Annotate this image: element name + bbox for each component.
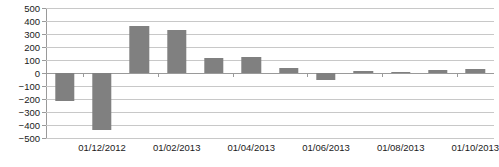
y-axis-tick-label: 500 [24, 3, 40, 14]
x-axis-tick-labels: 01/12/201201/02/201301/04/201301/06/2013… [46, 142, 494, 164]
y-axis-tick-label: 100 [24, 55, 40, 66]
y-axis-tick-mark [42, 86, 46, 87]
bar-slot [419, 8, 456, 138]
y-axis-tick-label: 300 [24, 29, 40, 40]
x-axis-tick-mark [83, 73, 84, 77]
bar-slot [345, 8, 382, 138]
bar[interactable] [391, 72, 410, 73]
bar[interactable] [167, 30, 186, 73]
y-axis-tick-label: −100 [19, 81, 40, 92]
y-axis-tick-mark [42, 73, 46, 74]
bar-slot [83, 8, 120, 138]
bar-slot [270, 8, 307, 138]
x-axis-tick-label: 01/04/2013 [228, 142, 276, 153]
y-axis-tick-label: 0 [35, 68, 40, 79]
x-axis-tick-mark [307, 73, 308, 77]
x-axis-tick-mark [457, 73, 458, 77]
y-axis-tick-mark [42, 112, 46, 113]
x-axis-tick-label: 01/10/2013 [452, 142, 499, 153]
y-axis-tick-mark [42, 34, 46, 35]
bar-slot [195, 8, 232, 138]
bar-slot [307, 8, 344, 138]
bar[interactable] [204, 58, 223, 73]
bar-slot [46, 8, 83, 138]
x-axis-tick-label: 01/02/2013 [153, 142, 201, 153]
bar[interactable] [279, 68, 298, 73]
x-axis-tick-label: 01/06/2013 [302, 142, 350, 153]
y-axis-tick-label: −400 [19, 120, 40, 131]
y-axis-tick-label: −200 [19, 94, 40, 105]
y-axis-tick-mark [42, 125, 46, 126]
y-axis-tick-label: −500 [19, 133, 40, 144]
x-axis-tick-mark [382, 73, 383, 77]
bar-slot [457, 8, 494, 138]
bar-series [46, 8, 494, 138]
y-axis-tick-mark [42, 8, 46, 9]
bar[interactable] [428, 70, 447, 73]
bar[interactable] [130, 26, 149, 73]
gridline [46, 138, 494, 139]
y-axis-tick-mark [42, 99, 46, 100]
bar-slot [121, 8, 158, 138]
bar[interactable] [242, 57, 261, 73]
y-axis-tick-mark [42, 47, 46, 48]
y-axis-tick-labels: 5004003002001000−100−200−300−400−500 [0, 8, 40, 138]
y-axis-tick-mark [42, 21, 46, 22]
x-axis-tick-mark [233, 73, 234, 77]
y-axis-tick-label: 200 [24, 42, 40, 53]
plot-area [46, 8, 494, 138]
bar-slot [158, 8, 195, 138]
x-axis-tick-mark [158, 73, 159, 77]
x-axis-tick-label: 01/12/2012 [78, 142, 126, 153]
y-axis-tick-label: −300 [19, 107, 40, 118]
x-axis-tick-label: 01/08/2013 [377, 142, 425, 153]
bar[interactable] [55, 73, 74, 101]
bar[interactable] [466, 69, 485, 73]
y-axis-tick-mark [42, 60, 46, 61]
bar[interactable] [354, 71, 373, 73]
y-axis-tick-mark [42, 138, 46, 139]
bar[interactable] [316, 73, 335, 80]
y-axis-tick-label: 400 [24, 16, 40, 27]
bar-slot [233, 8, 270, 138]
bar[interactable] [92, 73, 111, 130]
bar-slot [382, 8, 419, 138]
